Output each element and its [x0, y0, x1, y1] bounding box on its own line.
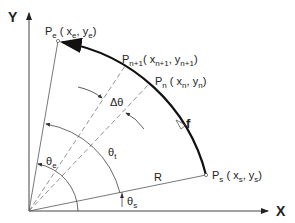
radius-line-start [29, 175, 206, 211]
theta-s-label: θs [127, 195, 137, 210]
theta-e-arc [38, 164, 78, 211]
delta-theta-label: Δθ [110, 96, 123, 108]
pn-label: Pn ( xn, yn) [155, 75, 206, 90]
pe-label: Pe ( xe, ye) [45, 25, 96, 40]
dashed-line-pn1 [29, 66, 125, 211]
point-ps [204, 173, 207, 176]
theta-t-arc [46, 124, 120, 193]
feed-direction-marker [176, 120, 186, 129]
delta-theta-arrow-upper [78, 87, 102, 98]
circular-interpolation-diagram: Y X Pe ( xe, ye) Pn+1( xn+1, yn+1) Pn ( … [0, 0, 295, 223]
x-axis-label: X [276, 203, 286, 219]
theta-t-label: θt [108, 146, 117, 161]
ps-label: Ps ( xs, ys) [212, 169, 262, 184]
pn1-label: Pn+1( xn+1, yn+1) [122, 53, 198, 68]
theta-e-label: θe [46, 155, 57, 170]
y-axis-label: Y [8, 9, 18, 25]
point-pe [56, 39, 59, 42]
feed-label: f [186, 116, 191, 131]
delta-theta-arrow-lower [126, 113, 144, 129]
dashed-line-pn [29, 84, 149, 211]
radius-label: R [154, 171, 162, 183]
